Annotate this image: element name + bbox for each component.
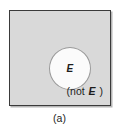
event-label: E	[50, 48, 90, 89]
complement-region-label: (not E )	[67, 86, 103, 97]
complement-event-symbol: E	[88, 85, 97, 97]
venn-diagram-figure: E (not E ) (a)	[0, 0, 119, 132]
complement-prefix-text: (not	[67, 85, 88, 97]
sample-space-rectangle: E (not E )	[9, 10, 111, 106]
figure-caption: (a)	[0, 113, 119, 124]
complement-suffix-text: )	[97, 85, 103, 97]
